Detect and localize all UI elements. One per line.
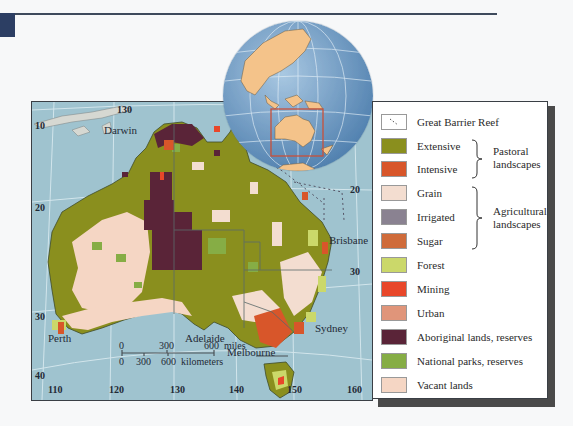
longitude-tick: 150 xyxy=(287,384,302,395)
swatch-intensive xyxy=(381,161,407,177)
longitude-tick: 140 xyxy=(229,384,244,395)
scale-km-0: 0 xyxy=(119,356,124,367)
legend-label: Forest xyxy=(417,259,445,271)
group-label-pastoral: Pastoral landscapes xyxy=(493,145,541,171)
legend-item-vacant-lands: Vacant lands xyxy=(381,376,473,394)
swatch-sugar xyxy=(381,233,407,249)
scale-miles-0: 0 xyxy=(119,340,124,351)
legend-label: Grain xyxy=(417,187,442,199)
globe-graphic xyxy=(223,21,373,171)
brace-pastoral-icon xyxy=(471,139,483,179)
scale-km-600: 600 xyxy=(161,356,176,367)
legend-item-sugar: Sugar xyxy=(381,232,443,250)
city-label-sydney: Sydney xyxy=(315,322,348,334)
legend-label: National parks, reserves xyxy=(417,355,523,367)
longitude-tick-top: 130 xyxy=(117,104,132,115)
scale-km-unit: kilometers xyxy=(181,356,223,367)
scale-km-300: 300 xyxy=(136,356,151,367)
legend-item-intensive: Intensive xyxy=(381,160,457,178)
inset-globe xyxy=(223,21,373,171)
legend-item-extensive: Extensive xyxy=(381,137,460,155)
map-legend: Great Barrier Reef Extensive Intensive G… xyxy=(372,101,548,399)
city-label-darwin: Darwin xyxy=(104,124,137,136)
legend-label: Mining xyxy=(417,283,449,295)
group-label-agricultural: Agricultural landscapes xyxy=(493,205,547,231)
latitude-tick: 30 xyxy=(35,311,45,322)
city-label-brisbane: Brisbane xyxy=(329,234,368,246)
brace-agricultural-icon xyxy=(471,186,483,250)
longitude-tick: 160 xyxy=(347,384,362,395)
legend-item-forest: Forest xyxy=(381,256,445,274)
legend-label: Aboriginal lands, reserves xyxy=(417,331,532,343)
header-rule xyxy=(14,13,497,15)
latitude-tick: 30 xyxy=(350,266,360,277)
legend-label: Great Barrier Reef xyxy=(417,116,499,128)
scale-miles-300: 300 xyxy=(159,340,174,351)
scale-miles-unit: miles xyxy=(224,340,246,351)
legend-item-national-parks: National parks, reserves xyxy=(381,352,523,370)
legend-item-mining: Mining xyxy=(381,280,449,298)
city-label-perth: Perth xyxy=(48,332,71,344)
legend-label: Urban xyxy=(417,307,445,319)
scale-miles-600: 600 xyxy=(204,340,219,351)
legend-item-urban: Urban xyxy=(381,304,445,322)
longitude-tick: 110 xyxy=(48,384,62,395)
longitude-tick: 130 xyxy=(170,384,185,395)
legend-label: Intensive xyxy=(417,163,457,175)
legend-label: Irrigated xyxy=(417,211,455,223)
swatch-national-parks xyxy=(381,353,407,369)
swatch-irrigated xyxy=(381,209,407,225)
legend-item-irrigated: Irrigated xyxy=(381,208,455,226)
swatch-mining xyxy=(381,281,407,297)
legend-item-great-barrier-reef: Great Barrier Reef xyxy=(381,113,499,131)
latitude-tick: 20 xyxy=(350,184,360,195)
latitude-tick: 20 xyxy=(35,202,45,213)
swatch-forest xyxy=(381,257,407,273)
swatch-vacant-lands xyxy=(381,377,407,393)
legend-item-grain: Grain xyxy=(381,184,442,202)
latitude-tick: 10 xyxy=(35,120,45,131)
reef-dash-icon xyxy=(381,114,407,130)
legend-label: Vacant lands xyxy=(417,379,473,391)
latitude-tick: 40 xyxy=(35,370,45,381)
section-corner-block xyxy=(0,13,15,37)
swatch-aboriginal-lands xyxy=(381,329,407,345)
legend-label: Extensive xyxy=(417,140,460,152)
swatch-extensive xyxy=(381,138,407,154)
swatch-urban xyxy=(381,305,407,321)
legend-label: Sugar xyxy=(417,235,443,247)
longitude-tick: 120 xyxy=(109,384,124,395)
legend-item-aboriginal-lands: Aboriginal lands, reserves xyxy=(381,328,532,346)
swatch-grain xyxy=(381,185,407,201)
